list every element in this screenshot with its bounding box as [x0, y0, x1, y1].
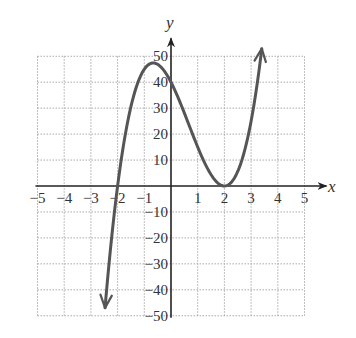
x-tick-label: 2 — [221, 190, 229, 206]
x-tick-label: 4 — [274, 190, 282, 206]
y-tick-label: 30 — [153, 100, 168, 116]
x-axis-label: x — [327, 177, 336, 196]
x-tick-label: −5 — [30, 190, 46, 206]
y-tick-label: 20 — [153, 126, 168, 142]
y-tick-label: −40 — [145, 282, 168, 298]
curve-path — [105, 49, 262, 308]
x-tick-label: 5 — [301, 190, 309, 206]
y-tick-label: −10 — [145, 204, 168, 220]
x-tick-label: 1 — [194, 190, 202, 206]
y-axis-label: y — [164, 13, 174, 32]
x-tick-label: 3 — [247, 190, 255, 206]
y-tick-label: −50 — [145, 308, 168, 324]
function-graph: −5−4−3−2−1123455040302010−10−20−30−40−50… — [0, 0, 356, 338]
x-tick-label: −4 — [56, 190, 72, 206]
y-tick-label: 10 — [153, 152, 168, 168]
y-tick-label: 40 — [153, 74, 168, 90]
function-curve — [100, 49, 265, 308]
y-tick-label: −30 — [145, 256, 168, 272]
x-tick-label: −3 — [83, 190, 99, 206]
axes — [36, 38, 327, 318]
y-tick-label: −20 — [145, 230, 168, 246]
